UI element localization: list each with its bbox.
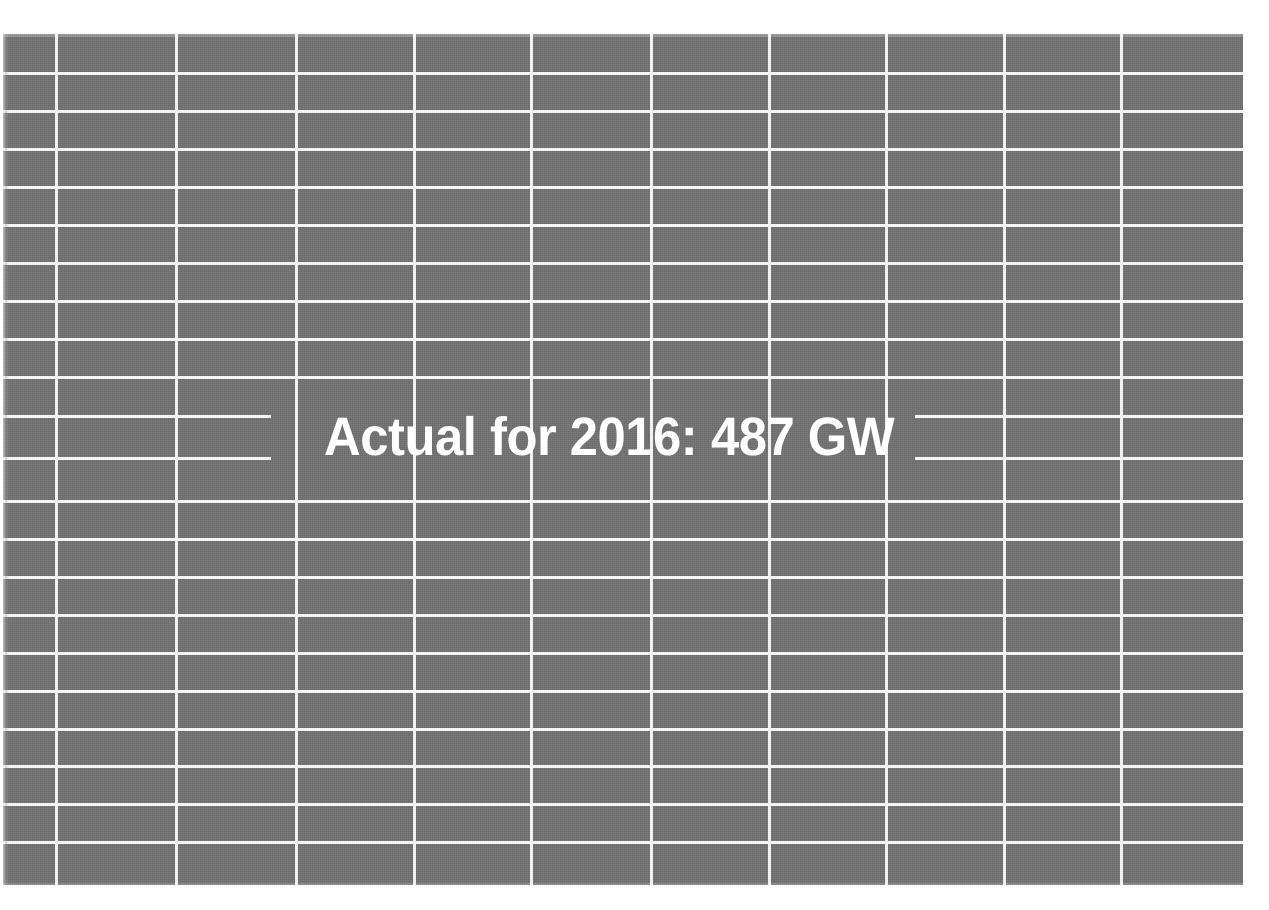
gridline-horizontal [3, 841, 1243, 844]
gridline-horizontal-left-segment [3, 415, 271, 418]
gridline-horizontal [3, 576, 1243, 579]
gridline-horizontal [3, 376, 1243, 379]
gridline-horizontal [3, 72, 1243, 75]
gridline-vertical [1003, 34, 1006, 885]
gridline-horizontal [3, 300, 1243, 303]
chart-canvas: Actual for 2016: 487 GW [0, 0, 1269, 910]
gridline-horizontal [3, 110, 1243, 113]
gridline-horizontal [3, 728, 1243, 731]
gridline-horizontal [3, 224, 1243, 227]
gridline-horizontal [3, 500, 1243, 503]
gridline-vertical [1120, 34, 1123, 885]
gridline-vertical [295, 34, 298, 885]
gridline-horizontal [3, 338, 1243, 341]
gridline-horizontal [3, 803, 1243, 806]
gridline-horizontal [3, 614, 1243, 617]
gridline-horizontal-left-segment [3, 457, 271, 460]
annotation-actual-2016: Actual for 2016: 487 GW [324, 407, 850, 467]
gridline-horizontal [3, 186, 1243, 189]
gridline-horizontal [3, 690, 1243, 693]
gridline-horizontal [3, 765, 1243, 768]
gridline-horizontal [3, 652, 1243, 655]
panel-bottom-scan-edge [3, 883, 1243, 885]
gridline-horizontal [3, 262, 1243, 265]
gridline-horizontal-right-segment [915, 457, 1243, 460]
gridline-horizontal [3, 148, 1243, 151]
gridline-vertical [175, 34, 178, 885]
gridline-vertical [55, 34, 58, 885]
panel-top-scan-edge [3, 34, 1243, 37]
gridline-horizontal-right-segment [915, 415, 1243, 418]
gridline-horizontal [3, 538, 1243, 541]
